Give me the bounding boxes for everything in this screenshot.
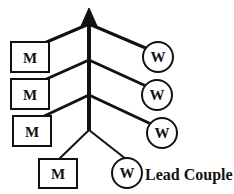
woman-1-node[interactable]: W [143, 42, 173, 72]
woman-2-label: W [150, 87, 165, 103]
woman-1-label: W [151, 49, 166, 65]
branch-right-1 [89, 24, 148, 49]
man-2-label: M [23, 87, 37, 103]
woman-3-node[interactable]: W [147, 118, 177, 148]
formation-diagram-canvas: M M M M W W W W [0, 0, 234, 194]
man-3-node[interactable]: M [13, 116, 51, 146]
man-2-node[interactable]: M [11, 79, 49, 109]
woman-3-label: W [155, 125, 170, 141]
woman-4-node[interactable]: W [112, 158, 142, 188]
lead-couple-caption: Lead Couple [145, 166, 233, 184]
man-1-node[interactable]: M [11, 42, 49, 72]
woman-2-node[interactable]: W [142, 80, 172, 110]
branch-left-4 [57, 130, 89, 161]
man-1-label: M [23, 50, 37, 66]
man-4-label: M [51, 166, 65, 182]
formation-diagram: M M M M W W W W [0, 0, 234, 194]
man-4-node[interactable]: M [39, 159, 77, 188]
branch-right-2 [89, 60, 146, 86]
woman-4-label: W [120, 165, 135, 181]
man-3-label: M [25, 124, 39, 140]
